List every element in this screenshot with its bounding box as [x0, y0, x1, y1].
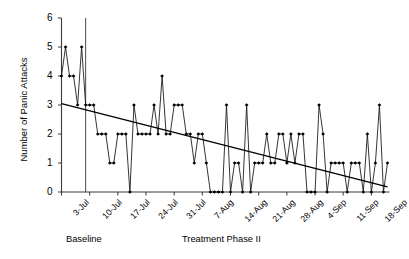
panic-attacks-chart: Number of Panic Attacks 0123456 3-Jul10-… — [0, 0, 409, 259]
data-point-marker — [60, 74, 64, 78]
data-point-marker — [104, 132, 108, 136]
data-point-marker — [68, 74, 72, 78]
data-point-marker — [96, 132, 100, 136]
data-point-marker — [112, 161, 116, 165]
data-point-marker — [168, 132, 172, 136]
data-point-marker — [273, 161, 277, 165]
data-point-marker — [124, 132, 128, 136]
data-point-marker — [76, 103, 80, 107]
data-point-marker — [128, 190, 132, 194]
y-axis-title: Number of Panic Attacks — [18, 25, 29, 195]
data-point-marker — [201, 132, 205, 136]
data-point-marker — [301, 132, 305, 136]
data-point-marker — [366, 132, 370, 136]
data-point-marker — [325, 190, 329, 194]
data-point-marker — [225, 103, 229, 107]
data-point-marker — [196, 132, 200, 136]
data-point-marker — [144, 132, 148, 136]
data-point-marker — [221, 190, 225, 194]
data-point-marker — [374, 161, 378, 165]
data-point-marker — [116, 132, 120, 136]
y-tick-label: 0 — [39, 187, 53, 197]
data-point-marker — [386, 161, 390, 165]
data-point-marker — [309, 190, 313, 194]
data-point-marker — [176, 103, 180, 107]
data-point-marker — [148, 132, 152, 136]
data-point-marker — [341, 161, 345, 165]
plot-area — [0, 0, 409, 259]
data-point-marker — [297, 132, 301, 136]
data-point-marker — [337, 161, 341, 165]
y-tick-label: 3 — [39, 100, 53, 110]
data-point-marker — [140, 132, 144, 136]
data-point-marker — [281, 132, 285, 136]
data-point-marker — [378, 103, 382, 107]
data-point-marker — [333, 161, 337, 165]
data-point-marker — [361, 190, 365, 194]
data-point-marker — [120, 132, 124, 136]
data-point-marker — [229, 190, 233, 194]
data-point-marker — [84, 103, 88, 107]
y-tick-label: 6 — [39, 13, 53, 23]
data-series-line — [62, 47, 388, 192]
data-point-marker — [136, 132, 140, 136]
data-point-marker — [349, 161, 353, 165]
data-point-marker — [233, 161, 237, 165]
data-point-marker — [100, 132, 104, 136]
data-point-marker — [345, 190, 349, 194]
data-point-marker — [305, 190, 309, 194]
data-point-marker — [164, 132, 168, 136]
data-point-marker — [265, 132, 269, 136]
phase-label-baseline: Baseline — [66, 234, 102, 244]
data-point-marker — [156, 132, 160, 136]
data-point-marker — [72, 74, 76, 78]
data-point-marker — [217, 190, 221, 194]
data-point-marker — [108, 161, 112, 165]
data-point-marker — [180, 103, 184, 107]
data-point-marker — [88, 103, 92, 107]
y-tick-label: 2 — [39, 129, 53, 139]
data-point-marker — [353, 161, 357, 165]
data-point-marker — [92, 103, 96, 107]
data-point-marker — [152, 103, 156, 107]
y-tick-label: 1 — [39, 158, 53, 168]
data-point-marker — [269, 161, 273, 165]
data-point-marker — [237, 161, 241, 165]
data-point-marker — [192, 161, 196, 165]
data-point-marker — [188, 132, 192, 136]
y-tick-label: 5 — [39, 42, 53, 52]
data-point-marker — [213, 190, 217, 194]
data-point-marker — [313, 190, 317, 194]
data-point-marker — [80, 45, 84, 49]
trend-line — [62, 104, 388, 187]
data-point-marker — [64, 45, 68, 49]
data-point-marker — [317, 103, 321, 107]
phase-label-treatment-phase-ii: Treatment Phase II — [182, 234, 261, 244]
y-tick-label: 4 — [39, 71, 53, 81]
data-point-marker — [253, 161, 257, 165]
data-point-marker — [172, 103, 176, 107]
data-point-marker — [277, 132, 281, 136]
data-point-marker — [132, 103, 136, 107]
data-point-marker — [289, 132, 293, 136]
data-point-marker — [209, 190, 213, 194]
data-point-marker — [261, 161, 265, 165]
data-point-marker — [245, 103, 249, 107]
data-point-marker — [321, 132, 325, 136]
data-point-marker — [329, 161, 333, 165]
data-point-marker — [160, 74, 164, 78]
data-point-marker — [241, 190, 245, 194]
data-point-marker — [357, 161, 361, 165]
data-point-marker — [382, 190, 386, 194]
data-point-marker — [205, 161, 209, 165]
data-point-marker — [249, 190, 253, 194]
data-point-marker — [370, 190, 374, 194]
data-point-marker — [257, 161, 261, 165]
